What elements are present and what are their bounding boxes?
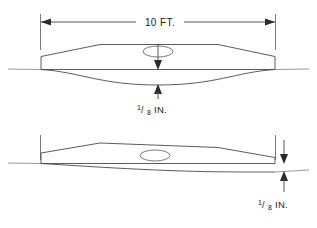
ground-line-right xyxy=(275,69,309,70)
engineering-diagram: 10 FT. 1 xyxy=(0,0,317,228)
bottom-deflection-denominator: 8 xyxy=(268,204,272,211)
span-arrowhead-left xyxy=(41,19,51,26)
bottom-view-group: 1 / 8 IN. xyxy=(8,135,309,211)
bottom-arrowhead-down xyxy=(280,154,288,164)
bottom-hole-ellipse xyxy=(140,150,170,161)
top-deflection-unit: IN. xyxy=(154,104,167,115)
bottom-ground-line-right xyxy=(275,170,309,172)
bottom-deflected-curve xyxy=(41,164,275,173)
span-arrowhead-right xyxy=(265,19,275,26)
top-view-group: 10 FT. 1 xyxy=(8,14,309,116)
diagram-canvas: 10 FT. 1 xyxy=(0,0,317,228)
bottom-deflection-label-group: 1 / 8 IN. xyxy=(258,199,288,211)
span-dimension-label: 10 FT. xyxy=(145,17,175,28)
bottom-ground-line-left xyxy=(8,163,41,164)
top-deflection-label-group: 1 / 8 IN. xyxy=(137,104,167,116)
bottom-deflection-slash: / xyxy=(262,200,265,210)
top-deflection-slash: / xyxy=(141,105,144,115)
deflected-curve xyxy=(41,70,275,86)
ground-line-left xyxy=(8,69,41,70)
bottom-deflection-unit: IN. xyxy=(275,199,288,210)
top-deflection-denominator: 8 xyxy=(147,109,151,116)
deflection-arrowhead-down xyxy=(154,60,162,70)
